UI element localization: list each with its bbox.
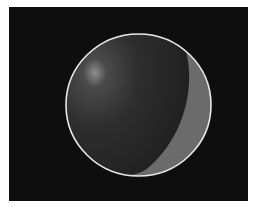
sphere-illustration bbox=[0, 0, 255, 207]
